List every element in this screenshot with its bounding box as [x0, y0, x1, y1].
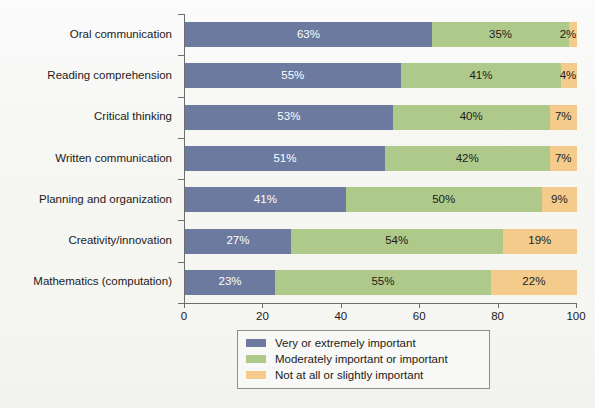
category-label: Reading comprehension: [47, 69, 172, 82]
category-label: Creativity/innovation: [68, 234, 172, 247]
bar-row: 23%55%22%: [185, 270, 577, 295]
bar-value-label: 27%: [226, 235, 249, 247]
bar-value-label: 4%: [560, 70, 577, 82]
bar-value-label: 55%: [281, 70, 304, 82]
legend-item: Very or extremely important: [246, 335, 481, 351]
bar-value-label: 50%: [432, 194, 455, 206]
y-axis-tick: [178, 303, 184, 304]
bar-row: 53%40%7%: [185, 105, 577, 130]
bar-value-label: 23%: [219, 277, 242, 289]
x-axis-tick-label: 20: [256, 310, 269, 322]
bar-value-label: 41%: [469, 70, 492, 82]
bar-value-label: 2%: [560, 29, 577, 41]
legend-color-swatch: [246, 371, 266, 379]
x-axis-tick: [576, 303, 577, 308]
category-axis-labels: Oral communicationReading comprehensionC…: [0, 14, 178, 303]
x-axis-tick-label: 60: [413, 310, 426, 322]
x-axis-tick: [419, 303, 420, 308]
bar-value-label: 41%: [254, 194, 277, 206]
legend-item: Not at all or slightly important: [246, 367, 481, 383]
legend-item-label: Moderately important or important: [275, 353, 448, 365]
x-axis-tick: [498, 303, 499, 308]
bar-row: 63%35%2%: [185, 22, 577, 47]
plot-area: 02040608010063%35%2%55%41%4%53%40%7%51%4…: [184, 14, 577, 303]
bar-row: 41%50%9%: [185, 187, 577, 212]
legend-color-swatch: [246, 355, 266, 363]
bar-value-label: 63%: [297, 29, 320, 41]
category-label: Critical thinking: [94, 110, 172, 123]
bar-value-label: 9%: [551, 194, 568, 206]
legend-color-swatch: [246, 339, 266, 347]
y-axis-tick: [178, 179, 184, 180]
y-axis-tick: [178, 55, 184, 56]
category-label: Planning and organization: [39, 193, 172, 206]
bar-value-label: 35%: [489, 29, 512, 41]
x-axis-line: [184, 303, 577, 304]
x-axis-tick-label: 0: [181, 310, 187, 322]
category-label: Mathematics (computation): [33, 275, 172, 288]
x-axis-tick-label: 80: [491, 310, 504, 322]
bar-value-label: 22%: [522, 277, 545, 289]
bar-value-label: 54%: [385, 235, 408, 247]
category-label: Oral communication: [70, 28, 172, 41]
bar-row: 51%42%7%: [185, 146, 577, 171]
category-label: Written communication: [55, 152, 172, 165]
chart-legend: Very or extremely importantModerately im…: [237, 330, 490, 389]
y-axis-tick: [178, 14, 184, 15]
y-axis-tick: [178, 220, 184, 221]
bar-value-label: 7%: [555, 111, 572, 123]
x-axis-tick: [262, 303, 263, 308]
legend-item-label: Not at all or slightly important: [275, 369, 423, 381]
bar-value-label: 55%: [371, 277, 394, 289]
bar-value-label: 40%: [460, 111, 483, 123]
bar-value-label: 7%: [555, 153, 572, 165]
bar-row: 55%41%4%: [185, 63, 577, 88]
x-axis-tick: [341, 303, 342, 308]
legend-item: Moderately important or important: [246, 351, 481, 367]
bar-value-label: 42%: [456, 153, 479, 165]
bar-row: 27%54%19%: [185, 229, 577, 254]
bar-value-label: 51%: [273, 153, 296, 165]
y-axis-tick: [178, 262, 184, 263]
x-axis-tick-label: 40: [334, 310, 347, 322]
bar-value-label: 19%: [528, 235, 551, 247]
stacked-bar-chart: Oral communicationReading comprehensionC…: [0, 0, 595, 408]
y-axis-tick: [178, 97, 184, 98]
legend-item-label: Very or extremely important: [275, 337, 416, 349]
y-axis-tick: [178, 138, 184, 139]
x-axis-tick: [184, 303, 185, 308]
x-axis-tick-label: 100: [566, 310, 585, 322]
bar-value-label: 53%: [277, 111, 300, 123]
